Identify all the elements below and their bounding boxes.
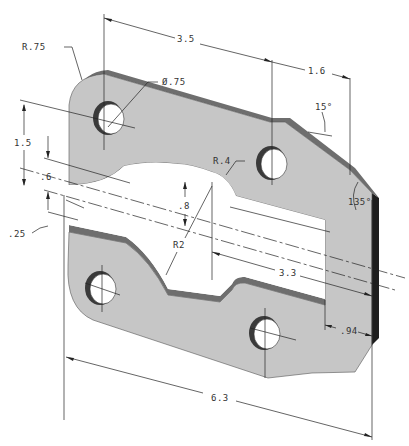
svg-text:1.6: 1.6 — [308, 66, 326, 76]
dim-chamfer-angle: 15° — [308, 102, 333, 136]
svg-text:3.5: 3.5 — [177, 34, 195, 44]
dim-hole-spacing: 3.5 — [104, 18, 272, 62]
svg-text:6.3: 6.3 — [211, 393, 229, 403]
svg-text:1.5: 1.5 — [14, 138, 32, 148]
dim-chamfer-width: 1.6 — [272, 62, 350, 79]
svg-text:.25: .25 — [8, 229, 26, 239]
svg-text:.8: .8 — [178, 201, 190, 211]
svg-text:R.75: R.75 — [22, 42, 46, 52]
svg-text:Ø.75: Ø.75 — [162, 77, 186, 87]
engineering-drawing: R.75 Ø.75 3.5 1.6 15° 135° R.4 1.5 — [0, 0, 409, 446]
plate-part — [68, 70, 379, 378]
dim-thickness: .25 — [8, 226, 48, 239]
svg-text:R2: R2 — [173, 240, 185, 250]
svg-text:.94: .94 — [340, 326, 358, 336]
plate-side-face — [372, 193, 379, 345]
dim-height-left: 1.5 — [14, 104, 32, 186]
svg-text:15°: 15° — [315, 102, 333, 112]
svg-text:3.3: 3.3 — [279, 268, 297, 278]
svg-text:.6: .6 — [40, 172, 52, 182]
dim-corner-radius: R.75 — [22, 42, 82, 80]
svg-text:R.4: R.4 — [213, 156, 231, 166]
svg-text:135°: 135° — [348, 197, 372, 207]
